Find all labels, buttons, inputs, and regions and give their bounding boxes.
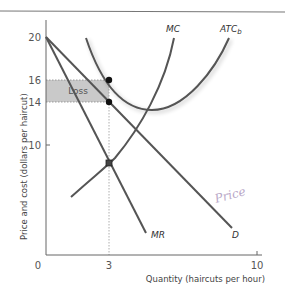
y-axis-title: Price and cost (dollars per haircut) [19, 93, 29, 240]
chart: Loss 20 16 14 10 0 3 10 Price and cost (… [0, 0, 285, 293]
demand-curve [46, 37, 232, 228]
y-tick-label-16: 16 [28, 75, 41, 86]
mc-mr-intersection-point [106, 160, 112, 166]
y-tick-label-14: 14 [28, 97, 41, 108]
atc-point [106, 77, 112, 83]
y-tick-label-10: 10 [28, 140, 41, 151]
header-rule [0, 11, 285, 12]
atc-label: ATCb [219, 24, 242, 36]
atc-label-main: ATC [219, 24, 238, 34]
atc-label-sub: b [237, 28, 242, 36]
x-tick-label-0: 0 [35, 260, 41, 271]
x-tick-label-3: 3 [106, 260, 112, 271]
mc-label: MC [166, 24, 181, 34]
x-tick-label-10: 10 [251, 260, 264, 271]
mr-label: MR [151, 230, 165, 240]
y-tick-label-20: 20 [28, 32, 41, 43]
handwritten-note: Price [212, 184, 247, 206]
demand-label: D [232, 230, 239, 240]
price-point [106, 99, 112, 105]
x-axis-title: Quantity (haircuts per hour) [146, 274, 265, 284]
mr-curve [46, 37, 146, 233]
